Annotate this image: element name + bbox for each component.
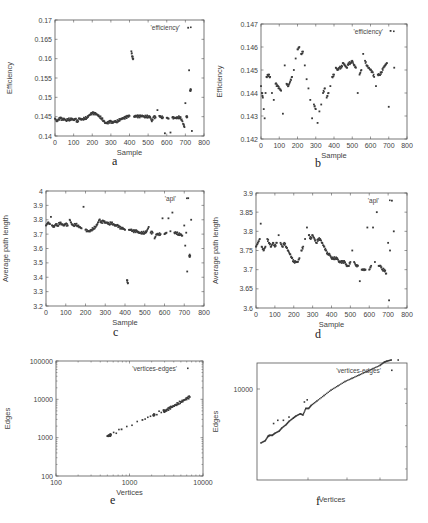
x-tick-label: 0 <box>254 311 258 318</box>
y-tick-label: 0.16 <box>38 55 52 62</box>
data-point <box>265 246 267 248</box>
data-point <box>259 238 261 240</box>
x-axis-label: Sample <box>117 148 142 157</box>
data-point <box>323 395 325 397</box>
x-tick-label: 600 <box>159 309 171 316</box>
y-tick-label: 100 <box>41 473 53 480</box>
data-point <box>271 92 273 94</box>
x-tick-label: 200 <box>86 139 98 146</box>
data-point <box>320 104 322 106</box>
y-tick-label: 0.146 <box>240 44 258 51</box>
y-tick-label: 3.8 <box>243 228 253 235</box>
data-point <box>83 206 85 208</box>
x-axis-label: Sample <box>319 320 344 329</box>
data-point <box>142 419 144 421</box>
x-tick-label: 200 <box>292 142 304 149</box>
outlier-point <box>273 423 275 425</box>
y-axis-label: Edges <box>211 411 220 433</box>
x-tick-label: 10000 <box>193 479 213 486</box>
data-point <box>306 78 308 80</box>
data-point <box>162 117 164 119</box>
x-tick-label: 100 <box>269 311 281 318</box>
data-point <box>330 389 332 391</box>
data-point <box>81 227 83 229</box>
data-point <box>328 92 330 94</box>
data-point <box>155 117 157 119</box>
chart-panel-a: 01002003004005006007008000.140.1450.150.… <box>5 17 210 158</box>
panel-caption-a: a <box>112 154 117 169</box>
legend-label: 'efficiency' <box>354 28 383 36</box>
legend-label: 'vertices-edges' <box>336 367 381 375</box>
x-tick-label: 400 <box>328 142 340 149</box>
data-point <box>148 226 150 228</box>
data-point <box>127 282 129 284</box>
data-point <box>289 81 291 83</box>
figure-svg: 01002003004005006007008000.140.1450.150.… <box>0 0 428 523</box>
x-tick-label: 600 <box>363 311 375 318</box>
data-point <box>344 381 346 383</box>
x-tick-label: 500 <box>346 142 358 149</box>
y-tick-label: 0.14 <box>38 133 52 140</box>
data-point <box>132 58 134 60</box>
data-point <box>184 102 186 104</box>
y-tick-label: 3.85 <box>239 209 253 216</box>
data-point <box>357 265 359 267</box>
x-tick-label: 100 <box>68 139 80 146</box>
y-tick-label: 0.145 <box>34 113 52 120</box>
plot-frame <box>56 361 203 476</box>
data-point <box>183 225 185 227</box>
data-point <box>360 69 362 71</box>
data-point <box>393 67 395 69</box>
y-tick-label: 10000 <box>234 386 254 393</box>
data-point <box>260 85 262 87</box>
data-point <box>304 238 306 240</box>
data-point <box>130 50 132 52</box>
data-point <box>282 113 284 115</box>
data-point <box>358 374 360 376</box>
panel-caption-b: b <box>315 156 321 171</box>
y-tick-label: 3.65 <box>239 285 253 292</box>
plot-frame <box>257 363 407 480</box>
data-point <box>304 65 306 67</box>
y-tick-label: 3.8 <box>33 216 43 223</box>
chart-panel-d: 01002003004005006007008003.63.653.73.753… <box>211 190 413 330</box>
data-point <box>190 89 192 91</box>
y-tick-label: 0.15 <box>38 94 52 101</box>
legend-marker <box>389 200 391 202</box>
data-point <box>302 414 304 416</box>
data-point <box>317 122 319 124</box>
data-point <box>390 30 392 32</box>
data-point <box>370 265 372 267</box>
x-axis-label: Vertices <box>319 495 346 504</box>
y-tick-label: 0.144 <box>240 90 258 97</box>
data-point <box>280 90 282 92</box>
data-point <box>172 212 174 214</box>
data-point <box>393 230 395 232</box>
data-point <box>276 242 278 244</box>
chart-panel-f: 10000'vertices-edges'VerticesEdges <box>211 359 407 504</box>
y-axis-label: Edges <box>3 408 12 430</box>
legend-marker <box>190 27 192 29</box>
data-point <box>315 108 317 110</box>
x-tick-label: 200 <box>288 311 300 318</box>
outlier-point <box>304 401 306 403</box>
x-tick-label: 300 <box>99 309 111 316</box>
x-tick-label: 300 <box>310 142 322 149</box>
x-tick-label: 100 <box>60 309 72 316</box>
x-tick-label: 300 <box>105 139 117 146</box>
data-point <box>185 232 187 234</box>
data-point <box>170 132 172 134</box>
y-tick-label: 0.17 <box>38 17 52 24</box>
legend-marker <box>187 368 189 370</box>
data-point <box>168 217 170 219</box>
data-point <box>269 76 271 78</box>
data-point <box>162 217 164 219</box>
panel-caption-c: c <box>113 325 118 340</box>
legend-label: 'apl' <box>368 197 379 205</box>
data-point <box>152 232 154 234</box>
x-tick-label: 400 <box>119 309 131 316</box>
legend-marker <box>186 198 188 200</box>
data-point <box>359 280 361 282</box>
data-point <box>186 116 188 118</box>
data-point <box>154 414 156 416</box>
